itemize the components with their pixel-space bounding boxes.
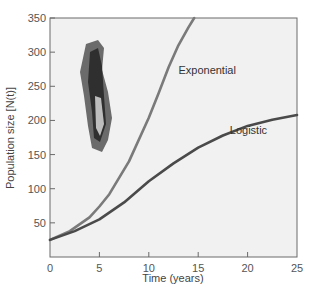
y-tick-label: 50 (34, 217, 46, 229)
y-axis-title: Population size [N(t)] (4, 87, 16, 189)
y-tick-label: 150 (28, 149, 46, 161)
x-tick-label: 5 (96, 262, 102, 274)
exponential-label: Exponential (178, 64, 236, 76)
y-tick-label: 300 (28, 46, 46, 58)
x-tick-label: 0 (47, 262, 53, 274)
y-tick-label: 100 (28, 183, 46, 195)
x-tick-label: 25 (291, 262, 303, 274)
y-tick-label: 250 (28, 80, 46, 92)
population-growth-chart: 50100150200250300350 0510152025 Exponent… (0, 0, 313, 297)
y-tick-label: 350 (28, 12, 46, 24)
x-axis-title: Time (years) (142, 272, 203, 284)
logistic-label: Logistic (230, 124, 268, 136)
x-tick-label: 20 (241, 262, 253, 274)
y-tick-label: 200 (28, 114, 46, 126)
